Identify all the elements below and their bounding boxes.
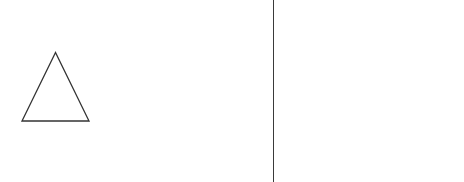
left-panel: [0, 0, 273, 182]
diagram-canvas: [0, 0, 464, 182]
right-panel: [274, 0, 464, 182]
triangle-shape: [22, 53, 89, 122]
triangle-figure: [0, 0, 273, 182]
